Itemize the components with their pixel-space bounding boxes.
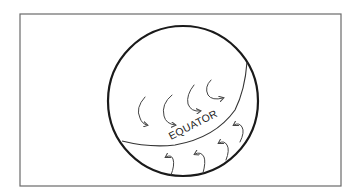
curved-arrow-icon — [219, 142, 228, 160]
curved-arrow-icon — [163, 95, 175, 125]
globe-circle — [108, 26, 258, 176]
coriolis-diagram: EQUATOR — [0, 0, 356, 195]
curved-arrow-icon — [234, 124, 243, 142]
diagram-frame — [20, 14, 341, 186]
curved-arrow-icon — [166, 156, 174, 175]
curved-arrow-icon — [207, 80, 223, 99]
curved-arrow-icon — [138, 97, 147, 125]
curved-arrow-icon — [195, 153, 205, 173]
curved-arrow-icon — [188, 85, 200, 111]
equator-label: EQUATOR — [166, 107, 219, 142]
